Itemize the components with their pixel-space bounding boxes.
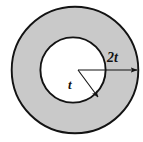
figure-canvas: 2t t	[0, 0, 143, 142]
annulus-drawing	[0, 0, 143, 142]
outer-radius-label: 2t	[107, 51, 118, 65]
inner-radius-label: t	[68, 78, 72, 91]
